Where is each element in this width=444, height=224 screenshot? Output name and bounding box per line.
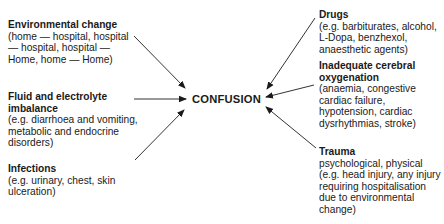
cause-fluid-electrolyte: Fluid and electrolyte imbalance (e.g. di…	[8, 91, 143, 149]
cause-infections: Infections (e.g. urinary, chest, skin ul…	[8, 163, 143, 198]
cause-description: (e.g. barbiturates, alcohol, L-Dopa, ben…	[319, 21, 444, 56]
cause-description: (e.g. diarrhoea and vomiting, metabolic …	[8, 114, 143, 149]
cause-title: Environmental change	[8, 19, 138, 31]
arrow-environmental	[134, 36, 185, 88]
cause-title: Fluid and electrolyte imbalance	[8, 91, 143, 114]
cause-environmental-change: Environmental change (home — hospital, h…	[8, 19, 138, 65]
arrow-cerebral	[266, 85, 314, 97]
arrow-trauma	[266, 107, 316, 148]
cause-cerebral-oxygenation: Inadequate cerebral oxygenation (anaemia…	[319, 60, 444, 130]
cause-drugs: Drugs (e.g. barbiturates, alcohol, L-Dop…	[319, 9, 444, 55]
cause-title: Inadequate cerebral oxygenation	[319, 60, 444, 83]
central-concept-label: CONFUSION	[192, 93, 261, 105]
cause-description: (e.g. urinary, chest, skin ulceration)	[8, 175, 143, 198]
cause-title: Infections	[8, 163, 143, 175]
cause-description: (home — hospital, hospital — hospital, h…	[8, 31, 138, 66]
cause-title: Drugs	[319, 9, 444, 21]
cause-description: (anaemia, congestive cardiac failure, hy…	[319, 83, 444, 129]
cause-trauma: Trauma psychological, physical (e.g. hea…	[319, 146, 444, 216]
cause-title: Trauma	[319, 146, 444, 158]
arrow-drugs	[267, 18, 315, 89]
cause-description: psychological, physical (e.g. head injur…	[319, 158, 444, 216]
